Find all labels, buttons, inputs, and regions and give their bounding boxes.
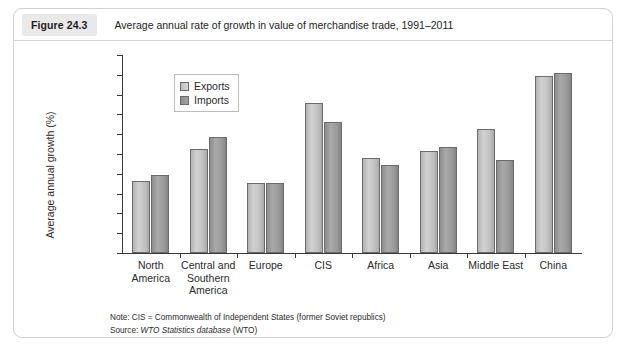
y-axis-tick: [117, 154, 122, 155]
bar-imports-cis: [324, 122, 342, 253]
figure-screenshot: Figure 24.3 Average annual rate of growt…: [0, 0, 626, 355]
y-axis-tick: [117, 194, 122, 195]
y-axis-line: [122, 55, 123, 254]
legend-item-imports: Imports: [180, 93, 230, 107]
bar-imports-europe: [266, 183, 284, 253]
bar-imports-asia: [439, 147, 457, 253]
x-axis-tick: [410, 254, 411, 258]
x-axis-tick: [180, 254, 181, 258]
y-axis-tick: [117, 55, 122, 56]
y-axis-tick: [117, 174, 122, 175]
x-axis-tick: [525, 254, 526, 258]
figure-note: Note: CIS = Commonwealth of Independent …: [110, 313, 386, 322]
bar-exports-europe: [247, 183, 265, 253]
bar-exports-middle-east: [477, 129, 495, 253]
bar-imports-central-and-southern-america: [209, 137, 227, 253]
figure-source: Source: WTO Statistics database (WTO): [110, 326, 257, 335]
source-prefix: Source:: [110, 326, 141, 335]
figure-number-badge: Figure 24.3: [22, 14, 97, 36]
bar-exports-asia: [420, 151, 438, 253]
y-axis-label: Average annual growth (%): [44, 90, 56, 260]
x-axis-category-label: China: [519, 259, 589, 272]
y-axis-tick: [117, 134, 122, 135]
x-axis-tick: [295, 254, 296, 258]
note-prefix: Note:: [110, 313, 132, 322]
category-label-line: Southern: [174, 272, 244, 285]
figure-header: Figure 24.3 Average annual rate of growt…: [14, 9, 612, 40]
y-axis-tick: [117, 233, 122, 234]
chart-plot-area: Average annual growth (%) 02468101214161…: [14, 41, 614, 339]
legend-swatch-imports-icon: [180, 96, 189, 105]
figure-title: Average annual rate of growth in value o…: [115, 19, 454, 31]
bar-exports-central-and-southern-america: [190, 149, 208, 253]
bar-imports-north-america: [151, 175, 169, 253]
bar-imports-middle-east: [496, 160, 514, 253]
bar-exports-africa: [362, 158, 380, 253]
legend-item-exports: Exports: [180, 79, 230, 93]
legend-swatch-exports-icon: [180, 82, 189, 91]
legend-label-exports: Exports: [194, 80, 230, 92]
y-axis-tick: [117, 253, 122, 254]
category-label-line: China: [519, 259, 589, 272]
y-axis-tick: [117, 95, 122, 96]
bar-exports-china: [535, 76, 553, 253]
source-italic-text: WTO Statistics database: [141, 326, 231, 335]
chart-legend: Exports Imports: [174, 74, 239, 112]
x-axis-tick: [467, 254, 468, 258]
legend-label-imports: Imports: [194, 94, 229, 106]
y-axis-tick: [117, 114, 122, 115]
bar-exports-cis: [305, 103, 323, 253]
category-label-line: America: [174, 284, 244, 297]
x-axis-tick: [237, 254, 238, 258]
y-axis-tick: [117, 75, 122, 76]
bar-exports-north-america: [132, 181, 150, 253]
figure-card: Figure 24.3 Average annual rate of growt…: [13, 8, 613, 338]
bar-imports-china: [554, 73, 572, 253]
x-axis-tick: [352, 254, 353, 258]
source-suffix: (WTO): [230, 326, 257, 335]
bar-imports-africa: [381, 165, 399, 253]
y-axis-tick: [117, 213, 122, 214]
note-text: CIS = Commonwealth of Independent States…: [132, 313, 386, 322]
